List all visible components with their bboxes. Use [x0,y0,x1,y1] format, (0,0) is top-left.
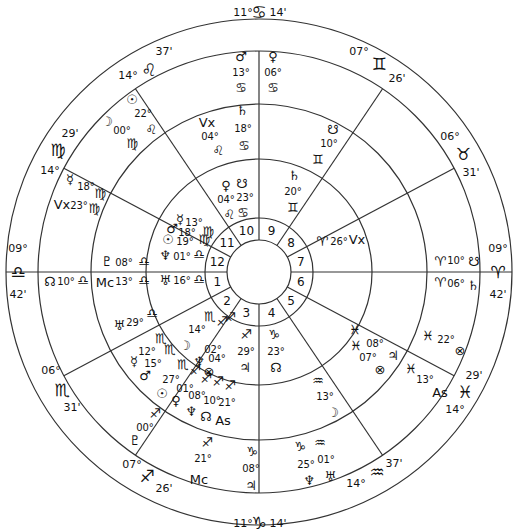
scorpio-sign-icon: ♏ [54,380,69,400]
south-node-icon[interactable]: ☋ [327,122,339,137]
c8-degree: 06° [440,130,460,143]
dsc-degree: 09° [488,242,508,255]
ic-degree: 11° [233,517,253,530]
midheaven-degree: 13° [115,276,133,287]
venus-icon[interactable]: ♀ [171,393,181,408]
saturn-degree: 18° [234,123,252,134]
c6-minute: 29' [465,369,482,382]
cancer-sign-icon: ♋ [267,80,279,95]
saturn-icon[interactable]: ♄ [288,168,300,183]
moon-icon[interactable]: ☽ [101,114,113,129]
c8-minute: 31' [462,166,479,179]
aquarius-sign-icon: ♒ [369,462,384,482]
c2-degree: 06° [41,364,61,377]
virgo-sign-icon: ♍ [126,136,138,151]
midheaven-degree: 21° [194,453,212,464]
ascendant-icon[interactable]: As [432,385,448,400]
north-node-icon[interactable]: ☊ [270,360,282,375]
house-number-7: 7 [297,255,305,269]
venus-degree: 06° [264,67,282,78]
moon-icon[interactable]: ☽ [179,338,191,353]
sun-icon[interactable]: ☉ [126,92,138,107]
pisces-sign-icon: ♓ [349,322,361,337]
pluto-icon[interactable]: ♇ [101,254,113,269]
gemini-sign-icon: ♊ [371,54,386,74]
house-number-9: 9 [268,224,276,238]
jupiter-degree: 29° [237,346,255,357]
vertex-icon[interactable]: Vx [54,197,71,212]
c11-degree: 14° [118,69,138,82]
vertex-icon[interactable]: Vx [199,115,216,130]
libra-sign-icon: ♎ [193,247,205,262]
house-number-10: 10 [239,224,254,238]
sun-degree: 19° [176,236,194,247]
ascendant-icon[interactable]: As [215,413,231,428]
pisces-sign-icon: ♓ [350,338,362,353]
part-of-fortune-icon[interactable]: ⊗ [455,343,466,358]
mercury-icon[interactable]: ☿ [66,172,74,187]
capricorn-sign-icon: ♑ [268,327,280,342]
sagittarius-sign-icon: ♐ [224,310,236,325]
cancer-sign-icon: ♋ [251,2,266,22]
north-node-degree: 10° [57,276,75,287]
pluto-icon[interactable]: ♇ [129,433,141,448]
saturn-icon[interactable]: ♄ [236,103,248,118]
north-node-degree: 23° [267,346,285,357]
center-circle [227,240,291,304]
libra-sign-icon: ♎ [193,272,205,287]
vertex-degree: 04° [201,131,219,142]
asc-degree: 09° [8,242,28,255]
virgo-sign-icon: ♍ [50,140,65,160]
scorpio-sign-icon: ♏ [164,342,176,357]
ascendant-degree: 21° [218,397,236,408]
moon-degree: 13° [316,391,334,402]
moon-icon[interactable]: ☽ [327,405,339,420]
neptune-icon[interactable]: ♆ [303,473,315,488]
sun-icon[interactable]: ☉ [156,386,168,401]
uranus-icon[interactable]: ♅ [159,273,171,288]
house-number-3: 3 [243,306,251,320]
neptune-icon[interactable]: ♆ [159,248,171,263]
mercury-degree: 12° [138,346,156,357]
neptune-degree: 01° [173,251,191,262]
south-node-icon[interactable]: ☋ [468,254,480,269]
jupiter-icon[interactable]: ♃ [245,478,257,493]
moon-degree: 14° [188,324,206,335]
pluto-degree: 00° [136,422,154,433]
south-node-degree: 23° [236,192,254,203]
cusp-labels: 11° ♋ 14' 11° ♑ 14' 09° ♎ 42' 09° ♈ 42' … [8,2,508,532]
midheaven-icon[interactable]: Mc [96,275,114,290]
uranus-icon[interactable]: ♅ [324,469,336,484]
saturn-icon[interactable]: ♄ [467,278,479,293]
venus-icon[interactable]: ♀ [268,49,278,64]
sagittarius-sign-icon: ♐ [200,371,212,386]
mars-icon[interactable]: ♂ [139,368,151,383]
mercury-degree: 18° [77,181,95,192]
part-of-fortune-icon[interactable]: ⊗ [375,362,386,377]
neptune-icon[interactable]: ♆ [185,404,197,419]
saturn-degree: 20° [284,186,302,197]
midheaven-icon[interactable]: Mc [190,472,208,487]
scorpio-sign-icon: ♏ [204,309,216,324]
jupiter-icon[interactable]: ♃ [387,348,399,363]
vertex-icon[interactable]: Vx [349,232,366,247]
sun-icon[interactable]: ☉ [162,232,174,247]
virgo-sign-icon: ♍ [198,232,210,247]
south-node-icon[interactable]: ☋ [236,176,248,191]
capricorn-sign-icon: ♑ [246,444,258,459]
c5-minute: 37' [385,457,402,470]
mercury-icon[interactable]: ☿ [130,354,138,369]
north-node-icon[interactable]: ☊ [44,274,56,289]
pluto-degree: 08° [115,257,133,268]
sagittarius-sign-icon: ♐ [201,435,213,450]
aries-sign-icon: ♈ [434,254,446,269]
north-node-icon[interactable]: ☊ [200,409,212,424]
moon-degree: 00° [113,125,131,136]
jupiter-icon[interactable]: ♃ [239,360,251,375]
venus-icon[interactable]: ♀ [221,178,231,193]
mars-icon[interactable]: ♂ [235,49,247,64]
uranus-icon[interactable]: ♅ [113,318,125,333]
house-cusp-lines [6,51,512,493]
leo-sign-icon: ♌ [141,60,156,80]
ascendant-degree: 13° [416,374,434,385]
